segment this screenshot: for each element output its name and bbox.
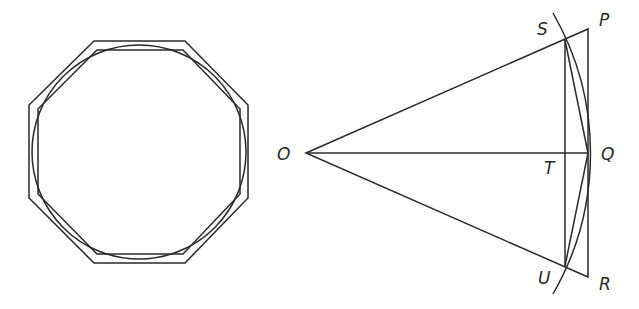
label-P: P bbox=[599, 10, 610, 30]
diagram-canvas: O S P Q T U R bbox=[0, 0, 639, 309]
octagon-figure bbox=[29, 41, 248, 263]
label-T: T bbox=[544, 158, 556, 178]
label-O: O bbox=[277, 144, 290, 164]
outer-octagon bbox=[29, 41, 248, 263]
label-S: S bbox=[537, 19, 548, 39]
circle bbox=[32, 45, 246, 259]
label-U: U bbox=[538, 268, 551, 288]
inner-octagon bbox=[38, 50, 240, 254]
sector-figure: O S P Q T U R bbox=[277, 10, 614, 294]
label-R: R bbox=[599, 274, 611, 294]
label-Q: Q bbox=[601, 144, 614, 164]
